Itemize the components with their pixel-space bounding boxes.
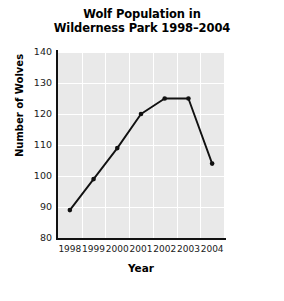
data-series-layer: [0, 0, 284, 301]
x-axis-title: Year: [58, 262, 224, 274]
wolf-population-line-chart: Wolf Population in Wilderness Park 1998–…: [0, 0, 284, 301]
data-point-2000: [115, 146, 120, 151]
data-point-1999: [91, 177, 96, 182]
series-markers-wolves: [68, 96, 215, 212]
data-point-2004: [210, 161, 215, 166]
data-point-2003: [186, 96, 191, 101]
data-point-2002: [162, 96, 167, 101]
y-axis-title: Number of Wolves: [14, 41, 25, 171]
data-point-2001: [139, 112, 144, 117]
data-point-1998: [68, 208, 73, 213]
